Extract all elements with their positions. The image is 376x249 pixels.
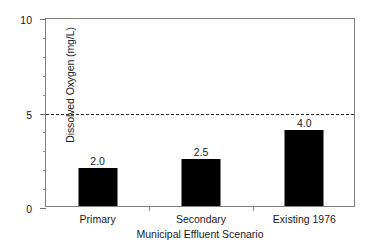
- bar-existing-1976: [285, 130, 324, 206]
- bar-primary: [78, 168, 117, 206]
- y-tick-minor-6: [43, 95, 47, 96]
- bar-value-existing-1976: 4.0: [297, 117, 312, 129]
- y-tick-minor-9: [43, 38, 47, 39]
- y-tick-label-5: 5: [26, 109, 32, 121]
- x-category-label-existing-1976: Existing 1976: [273, 213, 336, 225]
- y-tick-major-0: 0: [40, 208, 46, 209]
- y-axis-title: Dissolved Oxygen (mg/L): [64, 0, 76, 185]
- reference-line-5: [46, 114, 354, 115]
- plot-area: Dissolved Oxygen (mg/L) 0 5 10 2.0 2.5: [45, 18, 355, 207]
- y-tick-minor-4: [43, 132, 47, 133]
- x-axis-title: Municipal Effluent Scenario: [46, 228, 354, 240]
- x-category-label-secondary: Secondary: [176, 213, 226, 225]
- y-tick-label-0: 0: [26, 203, 32, 215]
- bar-value-primary: 2.0: [90, 155, 105, 167]
- bar-chart-figure: Dissolved Oxygen (mg/L) 0 5 10 2.0 2.5: [0, 0, 376, 249]
- bar-value-secondary: 2.5: [194, 146, 209, 158]
- y-tick-minor-7: [43, 76, 47, 77]
- bar-secondary: [182, 159, 221, 206]
- x-tick-boundary-1: [149, 206, 150, 211]
- x-category-label-primary: Primary: [80, 213, 116, 225]
- y-tick-minor-1: [43, 189, 47, 190]
- y-tick-minor-8: [43, 57, 47, 58]
- y-tick-label-10: 10: [20, 14, 32, 26]
- y-tick-minor-2: [43, 170, 47, 171]
- y-tick-minor-3: [43, 151, 47, 152]
- y-tick-major-10: 10: [40, 19, 46, 20]
- x-tick-boundary-2: [253, 206, 254, 211]
